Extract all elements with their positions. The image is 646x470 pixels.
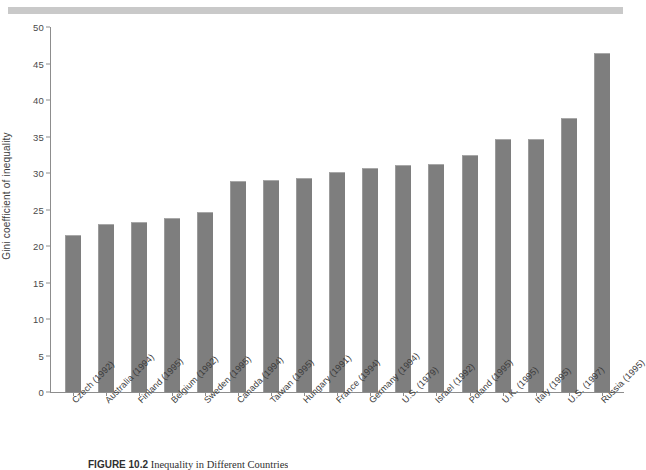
y-axis-tick-mark (46, 100, 50, 101)
y-axis-tick-mark (46, 27, 50, 28)
bar (462, 155, 478, 392)
y-axis-tick-mark (46, 282, 50, 283)
y-axis-tick-mark (46, 63, 50, 64)
y-axis-tick-mark (46, 173, 50, 174)
figure-caption-text: Inequality in Different Countries (151, 459, 289, 470)
figure-caption-label: FIGURE 10.2 (88, 459, 148, 470)
figure-caption: FIGURE 10.2 Inequality in Different Coun… (88, 459, 288, 470)
bar (528, 139, 544, 392)
plot-area: 05101520253035404550 (50, 27, 624, 392)
top-decorative-band (8, 7, 623, 14)
y-axis-tick-mark (46, 319, 50, 320)
y-axis-tick-mark (46, 136, 50, 137)
y-axis-title: Gini coefficient of inequality (1, 132, 12, 260)
y-axis-tick-mark (46, 355, 50, 356)
bar (65, 235, 81, 392)
bar (495, 139, 511, 392)
bar (594, 53, 610, 392)
bar (561, 118, 577, 392)
y-axis-tick-mark (46, 246, 50, 247)
y-axis-tick-mark (46, 209, 50, 210)
y-axis-tick-mark (46, 392, 50, 393)
bar (428, 164, 444, 392)
